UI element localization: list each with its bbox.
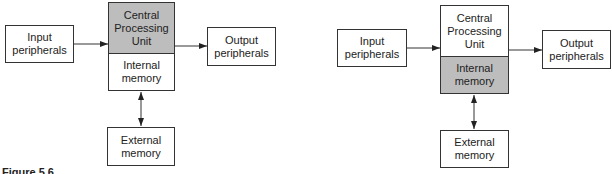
figure-caption: Figure 5.6 — [2, 166, 54, 174]
connector-arrows — [0, 0, 612, 174]
